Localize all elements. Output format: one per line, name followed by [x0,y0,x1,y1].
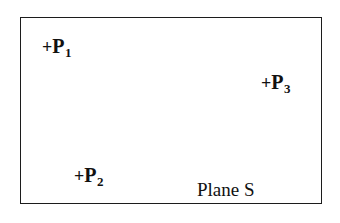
plus-marker-icon: + [42,37,52,57]
point-letter-p3: P [271,71,283,93]
point-subscript-p1: 1 [65,45,72,60]
point-subscript-p3: 3 [284,81,291,96]
point-letter-p1: P [52,35,64,57]
point-letter-p2: P [84,164,96,186]
plus-marker-icon: + [74,166,84,186]
plane-caption-label: Plane S [197,180,255,199]
point-label-p3: +P3 [261,72,290,95]
plane-diagram-figure: +P1 +P3 +P2 Plane S [0,0,340,223]
plus-marker-icon: + [261,73,271,93]
point-subscript-p2: 2 [97,174,104,189]
point-label-p1: +P1 [42,36,71,59]
point-label-p2: +P2 [74,165,103,188]
